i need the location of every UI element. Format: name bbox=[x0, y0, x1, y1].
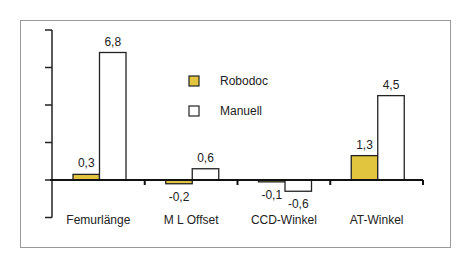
data-label: 0,6 bbox=[197, 151, 214, 165]
legend-label-manuell: Manuell bbox=[220, 104, 262, 118]
bar-chart: 0,36,8-0,20,6-0,1-0,61,34,5 FemurlängeM … bbox=[0, 0, 466, 263]
bar-robodoc bbox=[351, 156, 378, 180]
data-label: 0,3 bbox=[78, 156, 95, 170]
bar-manuell bbox=[100, 53, 127, 181]
category-label: CCD-Winkel bbox=[251, 213, 317, 227]
data-label: -0,1 bbox=[261, 188, 282, 202]
category-label: M L Offset bbox=[164, 213, 219, 227]
bar-manuell bbox=[285, 180, 312, 191]
data-label: -0,2 bbox=[169, 190, 190, 204]
category-label: AT-Winkel bbox=[350, 213, 404, 227]
legend: Robodoc Manuell bbox=[189, 74, 268, 118]
bar-manuell bbox=[192, 169, 219, 180]
legend-swatch-manuell bbox=[189, 106, 199, 116]
category-label: Femurlänge bbox=[66, 213, 130, 227]
legend-label-robodoc: Robodoc bbox=[220, 74, 268, 88]
data-label: 1,3 bbox=[356, 138, 373, 152]
data-label: 4,5 bbox=[383, 78, 400, 92]
data-label: 6,8 bbox=[104, 35, 121, 49]
data-label: -0,6 bbox=[288, 197, 309, 211]
category-labels: FemurlängeM L OffsetCCD-WinkelAT-Winkel bbox=[66, 213, 403, 227]
legend-swatch-robodoc bbox=[189, 76, 199, 86]
bar-manuell bbox=[378, 96, 405, 180]
